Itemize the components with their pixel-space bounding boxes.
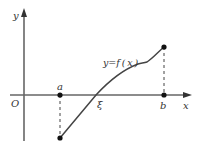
point-f-a — [57, 135, 62, 140]
x-axis-arrow-icon — [183, 92, 192, 98]
point-f-b — [161, 44, 166, 49]
y-axis-arrow-icon — [21, 8, 27, 17]
origin-label: O — [11, 98, 19, 109]
graph-canvas: y x O a b ξ y=f ( x ) — [0, 0, 206, 150]
point-a-label: a — [57, 81, 63, 92]
x-axis-label: x — [183, 100, 189, 111]
point-b-on-axis — [161, 92, 166, 97]
function-graph-diagram: y x O a b ξ y=f ( x ) — [0, 0, 206, 150]
point-a-on-axis — [57, 92, 62, 97]
curve-label: y=f ( x ) — [102, 57, 139, 68]
point-b-label: b — [160, 100, 166, 111]
xi-label: ξ — [97, 99, 103, 110]
y-axis-label: y — [12, 10, 19, 21]
